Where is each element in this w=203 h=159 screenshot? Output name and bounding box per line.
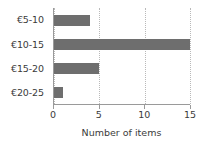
y-axis-tick-label: €15-20 — [0, 57, 49, 81]
bar-row — [54, 32, 190, 56]
y-axis-tick-label-text: €20-25 — [11, 88, 44, 98]
x-axis-tick-label: 15 — [184, 110, 196, 120]
y-axis-tick-label-text: €15-20 — [11, 64, 44, 74]
x-axis-tick-label: 10 — [138, 110, 150, 120]
x-axis-tick-label: 5 — [96, 110, 102, 120]
y-axis-tick-label-text: €5-10 — [17, 15, 44, 25]
bar — [54, 87, 63, 98]
bar — [54, 39, 190, 50]
x-axis-tick-label: 0 — [50, 110, 56, 120]
bar-chart: €5-10 €10-15 €15-20 €20-25 — [0, 0, 203, 159]
y-axis-tick-label-text: €10-15 — [11, 40, 44, 50]
bar-row — [54, 80, 190, 104]
bar-row — [54, 8, 190, 32]
bar-series — [54, 8, 190, 104]
bar — [54, 15, 90, 26]
x-axis-title: Number of items — [53, 128, 190, 138]
gridline — [190, 8, 191, 104]
bar — [54, 63, 99, 74]
y-axis-category-labels: €5-10 €10-15 €15-20 €20-25 — [0, 8, 49, 105]
y-axis-tick-label: €5-10 — [0, 8, 49, 32]
x-axis-tick-labels: 0 5 10 15 — [53, 110, 190, 124]
bar-row — [54, 56, 190, 80]
y-axis-tick-label: €10-15 — [0, 32, 49, 56]
plot-area — [53, 8, 190, 105]
y-axis-tick-label: €20-25 — [0, 81, 49, 105]
